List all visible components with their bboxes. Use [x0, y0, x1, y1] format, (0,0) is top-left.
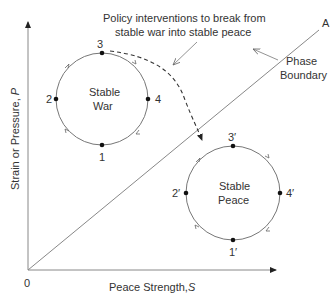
flow-arrow-icon — [65, 129, 69, 133]
phase-boundary: A Phase Boundary — [28, 17, 330, 270]
point-1-prime — [231, 238, 236, 243]
point-4-prime — [278, 191, 283, 196]
phase-diagram: 0 Peace Strength,S Strain or Pressure,P … — [0, 0, 336, 305]
point-2-prime-label: 2′ — [172, 187, 180, 199]
annotation-pointer-arrow — [173, 42, 197, 65]
point-2 — [54, 97, 59, 102]
y-axis-label-text: Strain or Pressure, — [9, 98, 21, 190]
stable-war-title-line2: War — [93, 100, 113, 112]
point-1-label: 1 — [99, 151, 105, 163]
x-axis-label-text: Peace Strength, — [109, 281, 188, 293]
stable-peace-circle — [186, 146, 280, 240]
point-4 — [146, 97, 151, 102]
origin-label: 0 — [24, 277, 30, 289]
x-axis-symbol: S — [188, 281, 196, 293]
point-3-label: 3 — [97, 38, 103, 50]
point-1 — [100, 143, 105, 148]
point-3-prime-label: 3′ — [228, 131, 236, 143]
point-4-prime-label: 4′ — [286, 187, 294, 199]
phase-boundary-label-line2: Boundary — [280, 69, 328, 81]
point-3 — [100, 51, 105, 56]
point-1-prime-label: 1′ — [229, 246, 237, 258]
flow-arrow-icon — [136, 130, 140, 134]
annotation-line1: Policy interventions to break from — [103, 12, 266, 24]
annotation-line2: stable war into stable peace — [115, 26, 251, 38]
y-axis-symbol: P — [9, 87, 21, 95]
stable-peace-cycle: 3′ 4′ 1′ 2′ Stable Peace — [172, 131, 294, 258]
flow-arrow-icon — [266, 227, 270, 231]
policy-annotation: Policy interventions to break from stabl… — [103, 12, 266, 65]
flow-arrow-icon — [132, 60, 136, 64]
point-3-prime — [231, 144, 236, 149]
stable-peace-title-line1: Stable — [219, 180, 250, 192]
flow-arrow-icon — [65, 64, 69, 68]
flow-arrow-icon — [265, 154, 269, 158]
point-2-prime — [184, 191, 189, 196]
stable-war-circle — [56, 53, 148, 145]
phase-boundary-label-line1: Phase — [286, 55, 317, 67]
stable-war-cycle: 3 4 1 2 Stable War — [46, 38, 161, 163]
stable-peace-title-line2: Peace — [218, 194, 249, 206]
point-4-label: 4 — [155, 93, 161, 105]
y-axis-label: Strain or Pressure,P — [9, 87, 21, 190]
phase-boundary-endpoint-label: A — [322, 17, 330, 29]
phase-boundary-pointer-arrow — [253, 49, 278, 60]
point-2-label: 2 — [46, 93, 52, 105]
flow-arrow-icon — [195, 225, 199, 229]
x-axis-label: Peace Strength,S — [109, 281, 196, 293]
phase-boundary-line — [28, 30, 319, 270]
stable-war-title-line1: Stable — [89, 86, 120, 98]
